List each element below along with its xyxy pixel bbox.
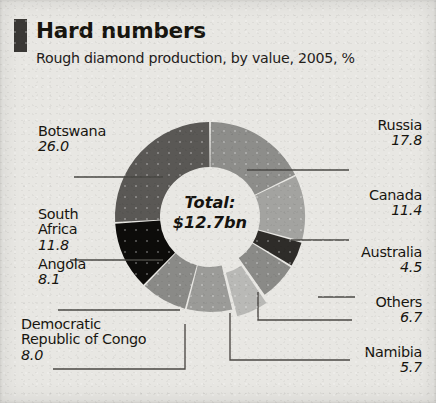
callout-namibia-value: 5.7 <box>365 360 422 375</box>
callout-australia: Australia 4.5 <box>361 245 422 276</box>
callout-drc-line1: Democratic <box>21 317 146 332</box>
callout-angola-name: Angola <box>38 257 86 272</box>
callout-south-africa-line1: South <box>38 207 78 222</box>
callout-namibia-name: Namibia <box>365 345 422 360</box>
chart-header: Hard numbers Rough diamond production, b… <box>0 0 436 92</box>
callout-namibia: Namibia 5.7 <box>365 345 422 376</box>
callout-drc-line2: Republic of Congo <box>21 332 146 347</box>
callout-canada-name: Canada <box>369 188 422 203</box>
callout-botswana-value: 26.0 <box>38 139 106 154</box>
callout-angola: Angola 8.1 <box>38 257 86 288</box>
callout-russia-name: Russia <box>378 118 422 133</box>
center-total-label: Total: <box>185 193 236 212</box>
title-marker <box>14 19 27 52</box>
callout-others: Others 6.7 <box>375 295 422 326</box>
callout-south-africa-line2: Africa <box>38 222 78 237</box>
callout-botswana: Botswana 26.0 <box>38 124 106 155</box>
callout-botswana-name: Botswana <box>38 124 106 139</box>
donut-chart: Total: $12.7bn Botswana 26.0 South Afric… <box>0 92 436 403</box>
callout-russia-value: 17.8 <box>378 133 422 148</box>
callout-south-africa-value: 11.8 <box>38 238 78 253</box>
callout-australia-name: Australia <box>361 245 422 260</box>
callout-russia: Russia 17.8 <box>378 118 422 149</box>
leader-others <box>258 292 352 320</box>
callout-south-africa: South Africa 11.8 <box>38 207 78 253</box>
callout-canada: Canada 11.4 <box>369 188 422 219</box>
callout-others-value: 6.7 <box>375 310 422 325</box>
center-total-value: $12.7bn <box>173 213 247 232</box>
callout-angola-value: 8.1 <box>38 272 86 287</box>
callout-canada-value: 11.4 <box>369 203 422 218</box>
callout-drc: Democratic Republic of Congo 8.0 <box>21 317 146 363</box>
callout-australia-value: 4.5 <box>361 260 422 275</box>
callout-drc-value: 8.0 <box>21 348 146 363</box>
callout-others-name: Others <box>375 295 422 310</box>
chart-subtitle: Rough diamond production, by value, 2005… <box>36 50 355 66</box>
page-title: Hard numbers <box>36 18 206 43</box>
